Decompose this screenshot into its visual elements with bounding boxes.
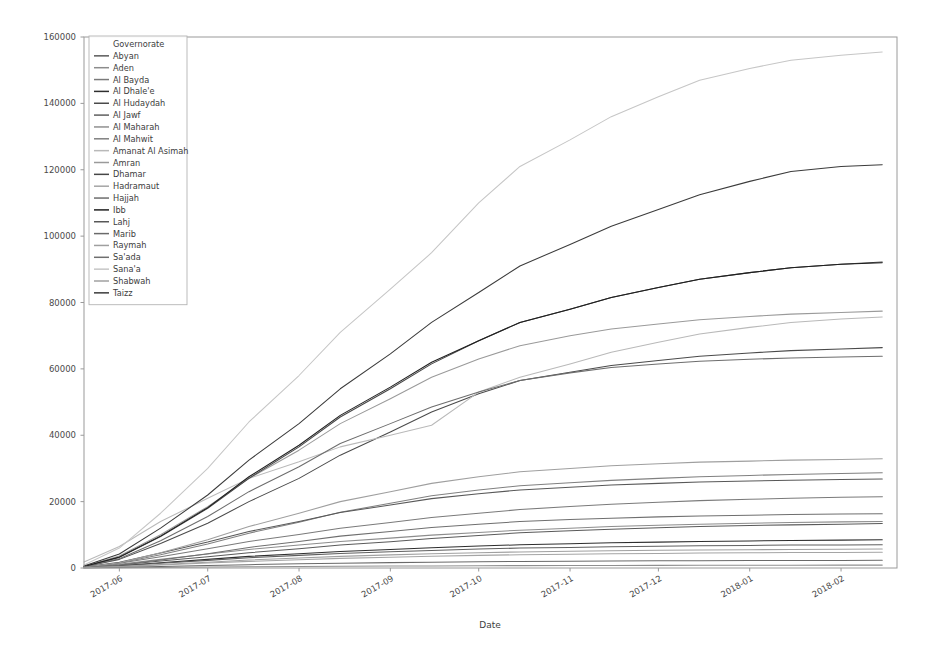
- x-tick-label: 2017-09: [360, 573, 396, 599]
- x-axis-ticks: 2017-062017-072017-082017-092017-102017-…: [89, 568, 846, 599]
- x-axis-title: Date: [479, 620, 501, 630]
- y-tick-label: 60000: [49, 364, 76, 374]
- legend-label-dhamar: Dhamar: [113, 169, 147, 179]
- y-tick-label: 80000: [49, 298, 76, 308]
- legend-label-taizz: Taizz: [112, 288, 133, 298]
- legend-label-hadramaut: Hadramaut: [113, 181, 160, 191]
- legend-label-al-hudaydah: Al Hudaydah: [113, 98, 165, 108]
- legend-label-raymah: Raymah: [113, 240, 147, 250]
- y-tick-label: 0: [71, 563, 76, 573]
- legend-label-sana-a: Sana'a: [113, 264, 141, 274]
- y-tick-label: 120000: [44, 165, 76, 175]
- x-tick-label: 2017-11: [539, 573, 575, 599]
- legend-title: Governorate: [113, 39, 164, 49]
- x-tick-label: 2017-08: [268, 573, 304, 599]
- y-tick-label: 100000: [44, 231, 76, 241]
- legend-label-al-maharah: Al Maharah: [113, 122, 159, 132]
- legend-label-hajjah: Hajjah: [113, 193, 139, 203]
- legend-label-amran: Amran: [113, 158, 140, 168]
- legend-label-amanat-al-asimah: Amanat Al Asimah: [113, 146, 188, 156]
- legend-label-abyan: Abyan: [113, 51, 139, 61]
- legend-label-shabwah: Shabwah: [113, 276, 151, 286]
- y-tick-label: 160000: [44, 32, 76, 42]
- y-tick-label: 140000: [44, 98, 76, 108]
- legend-label-al-jawf: Al Jawf: [113, 110, 142, 120]
- x-tick-label: 2017-07: [177, 573, 213, 599]
- legend-label-al-dhale-e: Al Dhale'e: [113, 86, 155, 96]
- line-chart: 0200004000060000800001000001200001400001…: [0, 0, 943, 653]
- legend-label-al-mahwit: Al Mahwit: [113, 134, 154, 144]
- x-tick-label: 2017-12: [628, 573, 664, 599]
- chart-figure: 0200004000060000800001000001200001400001…: [0, 0, 943, 653]
- legend-label-marib: Marib: [113, 229, 136, 239]
- y-tick-label: 40000: [49, 430, 76, 440]
- legend-label-ibb: Ibb: [113, 205, 126, 215]
- x-tick-label: 2018-02: [810, 573, 846, 599]
- x-tick-label: 2017-06: [89, 573, 125, 599]
- legend-label-aden: Aden: [113, 63, 134, 73]
- chart-legend: GovernorateAbyanAdenAl BaydaAl Dhale'eAl…: [89, 36, 188, 305]
- x-tick-label: 2018-01: [719, 573, 755, 599]
- legend-label-sa-ada: Sa'ada: [113, 252, 141, 262]
- x-tick-label: 2017-10: [448, 573, 484, 599]
- legend-label-al-bayda: Al Bayda: [113, 75, 149, 85]
- y-tick-label: 20000: [49, 497, 76, 507]
- legend-label-lahj: Lahj: [113, 217, 130, 227]
- y-axis-ticks: 0200004000060000800001000001200001400001…: [44, 32, 84, 573]
